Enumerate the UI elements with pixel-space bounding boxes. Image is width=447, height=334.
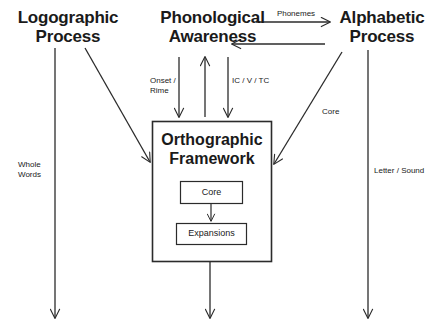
node-logographic-process: Logographic Process	[8, 8, 128, 46]
diagram-canvas: Logographic Process Phonological Awarene…	[0, 0, 447, 334]
orthographic-framework-title: Orthographic Framework	[152, 130, 272, 168]
logographic-to-framework-arrow	[85, 48, 150, 162]
edge-label-onset-rime: Onset / Rime	[150, 76, 180, 96]
edge-label-phonemes: Phonemes	[266, 9, 326, 19]
edge-label-letter-sound: Letter / Sound	[374, 166, 444, 176]
core-box-label: Core	[180, 187, 243, 197]
expansions-box-label: Expansions	[176, 228, 247, 238]
node-alphabetic-process: Alphabetic Process	[326, 8, 438, 46]
node-phonological-awareness: Phonological Awareness	[150, 8, 275, 46]
edge-label-whole-words: Whole Words	[18, 160, 50, 180]
edge-label-core: Core	[322, 107, 352, 117]
edge-label-ic-v-tc: IC / V / TC	[232, 76, 290, 86]
